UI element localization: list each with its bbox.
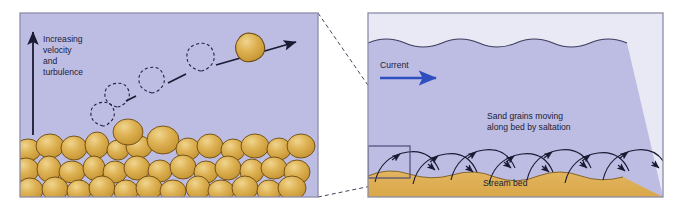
saltation-caption-line-1: Sand grains moving [487,111,563,121]
stream-bed-label: Stream bed [483,178,528,188]
left-panel: Increasing velocity and turbulence [13,13,318,202]
velocity-label-line-4: turbulence [43,67,83,77]
current-label: Current [380,60,409,70]
figure-canvas: Increasing velocity and turbulence [0,0,681,211]
moving-sand-grain [235,33,264,62]
saltation-caption: Sand grains moving along bed by saltatio… [487,111,571,132]
velocity-label-line-1: Increasing [43,34,83,44]
velocity-label-line-3: and [43,56,58,66]
bed-protruding-grain [113,119,143,145]
saltation-caption-line-2: along bed by saltation [487,122,571,132]
right-panel: Current Sand grains moving along bed by … [368,13,667,197]
saltation-figure: Increasing velocity and turbulence [0,0,681,211]
velocity-label-line-2: velocity [43,45,72,55]
